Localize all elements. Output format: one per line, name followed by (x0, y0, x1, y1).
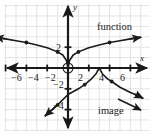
y-tick-label-neg2: −2 (53, 80, 64, 90)
y-axis-label: y (73, 3, 77, 12)
graph-figure: function image x y −6 −4 −2 2 4 6 2 −2 −… (0, 0, 153, 134)
y-tick-label-neg4: −4 (53, 101, 64, 111)
x-tick-label-4: 4 (99, 73, 104, 83)
x-tick-label-2: 2 (78, 73, 83, 83)
x-tick-label-neg6: −6 (11, 73, 22, 83)
x-axis-label: x (140, 54, 144, 63)
y-tick-label-2: 2 (56, 43, 61, 53)
series-label-function: function (97, 22, 132, 33)
x-tick-label-6: 6 (120, 73, 125, 83)
series-label-image: image (98, 106, 124, 117)
x-tick-label-neg4: −4 (28, 73, 39, 83)
